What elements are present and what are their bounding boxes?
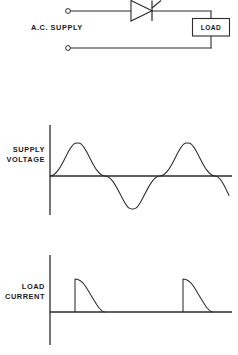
circuit-and-waveform-figure: [0, 0, 238, 355]
load-current-label-line2: CURRENT: [0, 292, 45, 302]
load-current-pulse-2: [183, 279, 213, 312]
load-current-label-line1: LOAD: [0, 282, 45, 292]
scr-gate-lead: [152, 1, 161, 9]
load-box-label: LOAD: [194, 24, 228, 31]
ac-supply-label: A.C. SUPPLY: [31, 23, 83, 33]
ac-terminal-bottom-icon: [66, 46, 71, 51]
scr-triangle: [131, 1, 152, 22]
supply-voltage-waveform: [50, 125, 232, 215]
supply-voltage-axis-label: SUPPLY VOLTAGE: [0, 145, 45, 164]
load-current-waveform: [50, 255, 232, 345]
supply-voltage-label-line1: SUPPLY: [0, 145, 45, 155]
load-current-pulse-1: [75, 279, 105, 312]
supply-voltage-label-line2: VOLTAGE: [0, 155, 45, 165]
ac-terminal-top-icon: [66, 9, 71, 14]
load-current-axis-label: LOAD CURRENT: [0, 282, 45, 301]
